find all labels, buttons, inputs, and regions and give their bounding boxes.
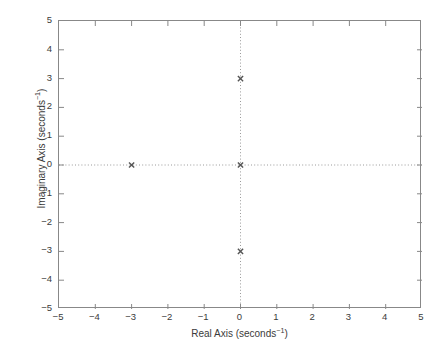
y-axis-label: Imaginary Axis (seconds−1) <box>36 34 47 264</box>
x-tick-label: −3 <box>116 312 146 322</box>
x-tick-label: 4 <box>370 312 400 322</box>
x-tick-label: 1 <box>261 312 291 322</box>
x-tick-label: −2 <box>152 312 182 322</box>
x-tick-label: 2 <box>297 312 327 322</box>
plot-axes-box <box>58 20 421 308</box>
x-tick-label: 5 <box>406 312 436 322</box>
exponent: −1 <box>276 326 284 335</box>
x-tick-label: 0 <box>225 312 255 322</box>
x-tick-label: −4 <box>79 312 109 322</box>
pole-markers-layer <box>59 21 422 309</box>
y-tick-label: −4 <box>24 274 52 284</box>
y-tick-label: 5 <box>24 15 52 25</box>
x-axis-label: Real Axis (seconds−1) <box>58 328 421 339</box>
pole-zero-plot-figure: −5−4−3−2−1012345 −5−4−3−2−1012345 Real A… <box>0 0 443 347</box>
pole-marker <box>238 76 243 81</box>
x-tick-label: 3 <box>333 312 363 322</box>
x-tick-label: −5 <box>43 312 73 322</box>
pole-marker <box>238 249 243 254</box>
pole-marker <box>129 162 134 167</box>
x-tick-label: −1 <box>188 312 218 322</box>
exponent: −1 <box>33 92 42 100</box>
pole-marker <box>238 162 243 167</box>
y-tick-label: −5 <box>24 303 52 313</box>
